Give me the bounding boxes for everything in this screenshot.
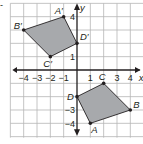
x-tick-label: −4 <box>19 73 29 83</box>
quadrilateral-original <box>77 83 130 123</box>
x-tick-label: 1 <box>88 73 93 83</box>
vertex-label: B′ <box>14 20 23 31</box>
x-tick-label: 4 <box>128 73 133 83</box>
y-tick-label: 1 <box>70 52 75 62</box>
vertex-point <box>22 28 26 32</box>
coordinate-plane: −4−3−2−113441−3−4xy ABCDA′B′C′D′ - <box>0 0 143 144</box>
vertex-label: A′ <box>54 5 64 16</box>
x-axis-left-arrow-icon <box>12 67 17 73</box>
x-axis-label: x <box>138 72 143 83</box>
y-tick-label: −3 <box>65 105 75 115</box>
x-tick-label: −1 <box>59 73 69 83</box>
x-tick-label: −3 <box>32 73 42 83</box>
vertex-label: C <box>99 71 106 82</box>
vertex-point <box>75 42 79 46</box>
x-tick-label: −2 <box>45 73 55 83</box>
problem-marker: - <box>0 0 3 10</box>
y-tick-label: 4 <box>70 12 75 22</box>
vertex-label: B <box>133 99 140 110</box>
axes <box>12 3 140 136</box>
y-tick-label: −4 <box>65 119 75 129</box>
quadrilateral-image <box>24 17 77 57</box>
vertex-label: D <box>67 91 74 102</box>
vertex-label: A <box>90 124 97 135</box>
vertex-label: D′ <box>80 31 90 42</box>
vertex-label: C′ <box>43 58 53 69</box>
x-tick-label: 3 <box>114 73 119 83</box>
y-axis-down-arrow-icon <box>74 129 80 136</box>
vertex-point <box>129 108 133 112</box>
vertex-point <box>75 95 79 99</box>
